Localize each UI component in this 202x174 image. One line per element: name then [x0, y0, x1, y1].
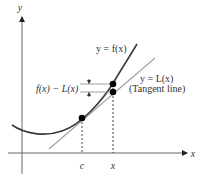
point-lx-dot [110, 89, 117, 96]
linear-approximation-diagram: y x y = f(x) y = L(x) (Tangent line) f(x… [0, 0, 202, 174]
c-label: c [80, 160, 85, 171]
point-c-dot [79, 115, 86, 122]
x-point-label: x [110, 160, 116, 171]
y-axis-label: y [17, 2, 23, 13]
x-axis-label: x [190, 148, 196, 159]
difference-label: f(x) − L(x) [36, 83, 79, 95]
tangent-line [49, 58, 155, 149]
point-fx-dot [110, 81, 117, 88]
tangent-note: (Tangent line) [129, 83, 185, 95]
curve-label: y = f(x) [96, 43, 127, 55]
